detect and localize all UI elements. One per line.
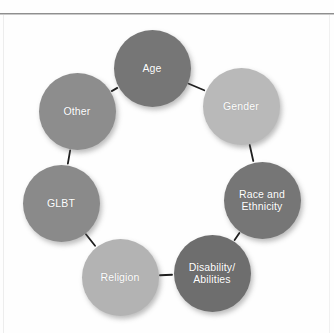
connector-age-to-gender [189,84,204,91]
cycle-node-label: Age [138,62,165,75]
cycle-node-disability[interactable]: Disability/Abilities [174,235,251,312]
cycle-node-age[interactable]: Age [114,30,191,107]
page-canvas: AgeGenderRace andEthnicityDisability/Abi… [0,0,334,333]
cycle-node-other[interactable]: Other [39,73,116,150]
cycle-node-label: Race andEthnicity [235,188,289,213]
cycle-node-label: Religion [96,271,143,284]
connector-glbt-to-other [68,150,70,163]
cycle-node-glbt[interactable]: GLBT [23,165,100,242]
cycle-node-religion[interactable]: Religion [82,239,159,316]
connector-gender-to-race [250,145,254,161]
cycle-node-label: GLBT [43,197,79,210]
cycle-node-gender[interactable]: Gender [203,68,280,145]
cycle-diagram: AgeGenderRace andEthnicityDisability/Abi… [0,15,334,333]
cycle-node-race[interactable]: Race andEthnicity [224,162,301,239]
connector-disability-to-religion [160,275,172,276]
cycle-node-label: Disability/Abilities [185,261,240,286]
connector-race-to-disability [235,233,240,240]
connector-religion-to-glbt [86,234,95,245]
connector-other-to-age [112,88,118,91]
cycle-node-label: Gender [219,100,263,113]
cycle-node-label: Other [59,105,94,118]
